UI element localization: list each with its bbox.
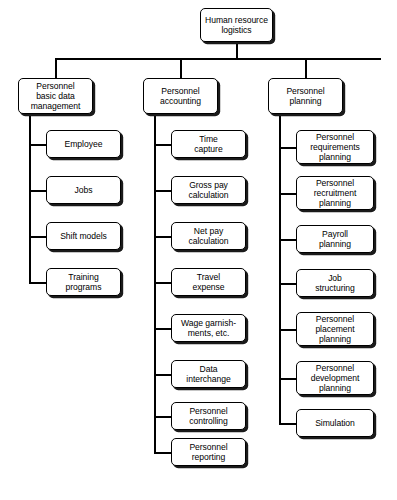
node-payroll-planning: Payroll planning <box>296 225 374 253</box>
org-chart: Human resource logistics Personnel basic… <box>0 0 397 500</box>
elbow-2-3 <box>154 236 171 238</box>
column-header-label: Personnel basic data management <box>31 81 81 112</box>
elbow-2-4 <box>154 282 171 284</box>
column-spine-3 <box>279 114 281 423</box>
node-label: Personnel requirements planning <box>310 132 360 163</box>
node-personnel-controlling: Personnel controlling <box>171 402 246 430</box>
node-label: Employee <box>65 139 103 149</box>
elbow-1-1 <box>29 144 46 146</box>
node-job-structuring: Job structuring <box>296 269 374 297</box>
node-label: Personnel controlling <box>189 406 228 426</box>
root-node-label: Human resource logistics <box>203 15 270 35</box>
node-label: Data interchange <box>186 364 230 384</box>
elbow-1-2 <box>29 190 46 192</box>
bus-drop-col-3 <box>305 58 307 78</box>
elbow-2-5 <box>154 328 171 330</box>
node-jobs: Jobs <box>46 176 121 204</box>
node-time-capture: Time capture <box>171 130 246 158</box>
bus-bar <box>55 58 381 60</box>
elbow-1-4 <box>29 282 46 284</box>
node-label: Payroll planning <box>319 229 351 249</box>
column-header-label: Personnel accounting <box>160 86 201 106</box>
node-label: Training programs <box>66 272 102 292</box>
node-label: Jobs <box>75 185 93 195</box>
node-label: Personnel recruitment planning <box>314 178 356 209</box>
node-label: Net pay calculation <box>188 226 228 246</box>
node-training-programs: Training programs <box>46 268 121 296</box>
node-net-pay-calculation: Net pay calculation <box>171 222 246 250</box>
node-label: Simulation <box>315 418 355 428</box>
node-travel-expense: Travel expense <box>171 268 246 296</box>
node-personnel-recruitment-planning: Personnel recruitment planning <box>296 176 374 210</box>
node-personnel-placement-planning: Personnel placement planning <box>296 312 374 346</box>
node-gross-pay-calculation: Gross pay calculation <box>171 176 246 204</box>
column-header-label: Personnel planning <box>286 86 324 106</box>
node-simulation: Simulation <box>296 409 374 437</box>
node-label: Shift models <box>60 231 107 241</box>
node-personnel-reporting: Personnel reporting <box>171 438 246 466</box>
elbow-2-8 <box>154 452 171 454</box>
elbow-3-2 <box>279 193 296 195</box>
node-personnel-development-planning: Personnel development planning <box>296 361 374 395</box>
elbow-3-5 <box>279 329 296 331</box>
node-label: Personnel development planning <box>311 363 360 394</box>
node-label: Job structuring <box>315 273 355 293</box>
node-shift-models: Shift models <box>46 222 121 250</box>
bus-drop-col-1 <box>55 58 57 78</box>
node-personnel-requirements-planning: Personnel requirements planning <box>296 130 374 164</box>
elbow-3-7 <box>279 423 296 425</box>
column-spine-1 <box>29 114 31 282</box>
elbow-2-6 <box>154 374 171 376</box>
elbow-3-3 <box>279 239 296 241</box>
node-data-interchange: Data interchange <box>171 360 246 388</box>
elbow-2-2 <box>154 190 171 192</box>
node-label: Travel expense <box>192 272 224 292</box>
elbow-3-4 <box>279 283 296 285</box>
root-node: Human resource logistics <box>200 8 273 42</box>
node-label: Gross pay calculation <box>188 180 228 200</box>
bus-drop-col-2 <box>180 58 182 78</box>
node-wage-garnishments: Wage garnish- ments, etc. <box>171 314 246 342</box>
elbow-3-6 <box>279 378 296 380</box>
column-header-personnel-accounting: Personnel accounting <box>143 78 218 114</box>
elbow-2-7 <box>154 416 171 418</box>
column-header-personnel-basic-data-management: Personnel basic data management <box>18 78 93 114</box>
elbow-3-1 <box>279 147 296 149</box>
elbow-2-1 <box>154 144 171 146</box>
node-employee: Employee <box>46 130 121 158</box>
elbow-1-3 <box>29 236 46 238</box>
node-label: Personnel reporting <box>189 442 227 462</box>
root-stem <box>236 42 238 59</box>
node-label: Time capture <box>194 134 222 154</box>
node-label: Personnel placement planning <box>315 314 354 345</box>
node-label: Wage garnish- ments, etc. <box>181 318 236 338</box>
column-header-personnel-planning: Personnel planning <box>268 78 343 114</box>
